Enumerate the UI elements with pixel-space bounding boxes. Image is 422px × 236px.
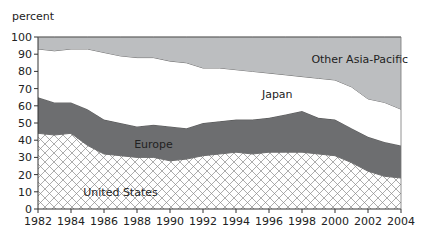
y-tick-label: 80 — [18, 65, 32, 78]
y-tick-label: 30 — [18, 151, 32, 164]
x-tick-label: 1998 — [288, 215, 316, 228]
x-tick-label: 1988 — [123, 215, 151, 228]
y-tick-label: 100 — [11, 31, 32, 44]
stacked-area-chart: percent United StatesEuropeJapanOther As… — [0, 0, 422, 236]
x-tick-label: 1994 — [222, 215, 250, 228]
x-tick-label: 1996 — [255, 215, 283, 228]
y-tick-label: 70 — [18, 83, 32, 96]
x-tick-label: 1990 — [156, 215, 184, 228]
x-tick-label: 2004 — [387, 215, 415, 228]
series-label: Other Asia-Pacific — [311, 53, 408, 66]
x-tick-label: 1984 — [57, 215, 85, 228]
series-label: Japan — [261, 88, 293, 101]
x-tick-label: 1982 — [24, 215, 52, 228]
series-label: United States — [83, 186, 158, 199]
x-tick-label: 2002 — [354, 215, 382, 228]
x-tick-label: 1992 — [189, 215, 217, 228]
x-tick-label: 2000 — [321, 215, 349, 228]
y-tick-label: 50 — [18, 117, 32, 130]
y-tick-label: 40 — [18, 134, 32, 147]
series-label: Europe — [134, 138, 173, 151]
y-tick-label: 20 — [18, 169, 32, 182]
y-tick-label: 90 — [18, 48, 32, 61]
x-tick-label: 1986 — [90, 215, 118, 228]
y-tick-label: 10 — [18, 186, 32, 199]
y-axis-title: percent — [12, 10, 55, 23]
y-tick-label: 60 — [18, 100, 32, 113]
